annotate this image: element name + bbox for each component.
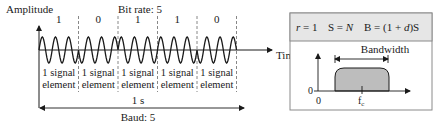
b-suffix: )S	[409, 21, 419, 34]
duration-label: 1 s	[132, 94, 145, 106]
bit-labels: 10110	[56, 13, 220, 25]
bandwidth-panel: r = 1 S = N B = (1 + d)S Bandwidth 0 0 f…	[290, 13, 432, 110]
s-label: S = N	[328, 21, 354, 33]
r-value: = 1	[300, 21, 317, 33]
psk-figure: Amplitude Bit rate: 5 Time 10110 1 signa…	[6, 3, 299, 123]
bit-label: 0	[214, 13, 220, 25]
signal-element-labels: 1 signalelement1 signalelement1 signalel…	[42, 67, 233, 90]
n-symbol: N	[345, 21, 354, 33]
signal-element-label-line2: element	[161, 79, 194, 90]
amplitude-label: Amplitude	[6, 3, 53, 15]
b-label: B = (1 + d)S	[364, 21, 419, 34]
signal-element-label-line2: element	[121, 79, 154, 90]
signal-element-label-line1: 1 signal	[42, 67, 75, 78]
s-symbol: S =	[328, 21, 346, 33]
signal-element-label-line1: 1 signal	[161, 67, 194, 78]
bit-label: 1	[175, 13, 181, 25]
fc-subscript: c	[361, 100, 364, 108]
signal-element-label-line2: element	[82, 79, 115, 90]
r-label: r = 1	[296, 21, 318, 33]
x-zero-label: 0	[316, 95, 321, 106]
y-zero-label: 0	[308, 85, 313, 96]
signal-element-label-line1: 1 signal	[82, 67, 115, 78]
signal-element-label-line1: 1 signal	[121, 67, 154, 78]
diagram-canvas: Amplitude Bit rate: 5 Time 10110 1 signa…	[0, 0, 438, 131]
signal-element-label-line2: element	[42, 79, 75, 90]
bit-label: 0	[96, 13, 102, 25]
bit-label: 1	[56, 13, 62, 25]
bit-label: 1	[135, 13, 141, 25]
signal-element-label-line2: element	[200, 79, 233, 90]
signal-element-label-line1: 1 signal	[200, 67, 233, 78]
bandwidth-label: Bandwidth	[361, 43, 410, 55]
b-prefix: B = (1 +	[364, 21, 404, 34]
baud-label: Baud: 5	[121, 111, 156, 123]
